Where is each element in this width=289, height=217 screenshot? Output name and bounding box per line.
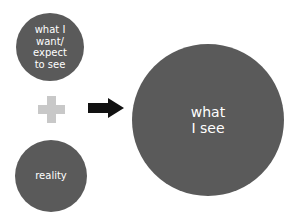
node-label: what I see [191, 104, 225, 136]
node-label: reality [35, 170, 67, 182]
plus-icon [38, 96, 65, 123]
node-reality: reality [15, 140, 87, 212]
right-arrow-icon [88, 98, 124, 118]
node-what-i-see: what I see [132, 44, 284, 196]
node-what-i-want: what I want/ expect to see [16, 13, 84, 81]
node-label: what I want/ expect to see [33, 24, 67, 70]
